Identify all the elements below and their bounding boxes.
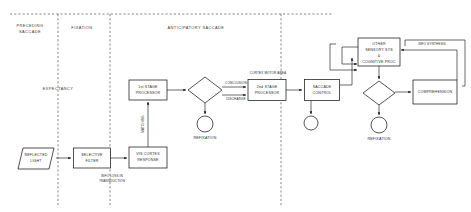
matching-label: MATCHING xyxy=(141,115,145,133)
phase-label-expectancy: EXPECTANCY xyxy=(43,86,74,91)
phase-label-line2: SACCADE xyxy=(19,29,41,34)
selective-filter-label-line1: SELECTIVE xyxy=(81,153,103,157)
other-sensory-label-line3: & xyxy=(378,54,381,58)
node-reflected-light[interactable]: REFLECTED LIGHT xyxy=(18,148,54,169)
phase-label-line1: PRECEDING xyxy=(16,23,43,28)
edge-label-matching: MATCHING xyxy=(141,115,145,133)
edge-sensory-feedback-outer xyxy=(330,44,357,70)
node-comprehension[interactable]: COMPREHENSION xyxy=(413,80,457,104)
refixation-1-label: REFIXATION xyxy=(193,136,216,140)
refixation-2-label: REFIXATION xyxy=(367,137,390,141)
phase-label-preceding-saccade: PRECEDING SACCADE xyxy=(16,23,43,34)
phase-label-line1: EXPECTANCY xyxy=(43,86,74,91)
other-sensory-label-line4: COGNITIVE PROC xyxy=(362,60,396,64)
edge-label-info-loss-transduction: INFO LOSS IN TRANSDUCTION xyxy=(99,174,125,183)
saccade-control-label-line1: SACCADE xyxy=(313,85,332,89)
reflected-light-label-line2: LIGHT xyxy=(30,159,42,163)
node-second-stage-processor[interactable]: 2nd STAGE PROCESSOR xyxy=(248,80,286,101)
node-refixation-1[interactable]: REFIXATION xyxy=(193,116,216,140)
phase-label-anticipatory-saccade: ANTICIPATORY SACCADE xyxy=(168,25,225,30)
comprehension-label: COMPREHENSION xyxy=(418,90,453,94)
info-loss-line1: INFO LOSS IN xyxy=(101,174,123,178)
edge-label-info-synthesis: INFO SYNTHESIS xyxy=(418,42,445,46)
phase-label-line1: ANTICIPATORY SACCADE xyxy=(168,25,225,30)
edge-label-conclusion: CONCLUSION xyxy=(225,81,247,85)
vis-cortex-response-label-line2: RESPONSE xyxy=(137,158,159,162)
other-sensory-label-line2: SENSORY SYS xyxy=(365,48,393,52)
diagram-canvas: PRECEDING SACCADE FIXATION ANTICIPATORY … xyxy=(0,0,471,212)
first-stage-processor-label-line2: PROCESSOR xyxy=(136,91,161,95)
first-stage-processor-label-line1: 1st STAGE xyxy=(138,85,158,89)
reflected-light-label-line1: REFLECTED xyxy=(25,153,48,157)
second-stage-processor-label-line2: PROCESSOR xyxy=(255,91,280,95)
node-refixation-mid[interactable] xyxy=(304,116,318,130)
node-refixation-2[interactable]: REFIXATION xyxy=(367,117,390,141)
discharge-label: DISCHARGE xyxy=(226,97,245,101)
node-decision-2[interactable] xyxy=(363,81,395,105)
conclusion-label: CONCLUSION xyxy=(225,81,247,85)
edge-info-synthesis xyxy=(401,50,457,80)
flow-diagram: PRECEDING SACCADE FIXATION ANTICIPATORY … xyxy=(0,0,471,212)
edge-info-synthesis-outer xyxy=(405,40,465,86)
phase-label-line1: FIXATION xyxy=(71,25,92,30)
other-sensory-label-line1: OTHER xyxy=(372,42,386,46)
node-vis-cortex-response[interactable]: VIS CORTEX RESPONSE xyxy=(129,147,167,168)
refixation-mid-shape xyxy=(304,116,318,130)
vis-cortex-response-label-line1: VIS CORTEX xyxy=(136,152,160,156)
node-other-sensory-cognitive[interactable]: OTHER SENSORY SYS & COGNITIVE PROC xyxy=(358,38,400,66)
cortex-motor-area-label: CORTEX MOTOR AREA xyxy=(250,71,287,75)
node-saccade-control[interactable]: SACCADE CONTROL xyxy=(305,80,340,101)
edge-label-cortex-motor-area: CORTEX MOTOR AREA xyxy=(250,71,287,75)
saccade-control-label-line2: CONTROL xyxy=(313,91,332,95)
decision-2-shape xyxy=(363,81,395,105)
edge-sensory-feedback-left xyxy=(342,47,358,64)
node-first-stage-processor[interactable]: 1st STAGE PROCESSOR xyxy=(129,80,167,100)
edge-label-discharge: DISCHARGE xyxy=(226,97,245,101)
decision-1-shape xyxy=(188,77,222,103)
refixation-1-shape xyxy=(197,116,213,132)
node-decision-1[interactable] xyxy=(188,77,222,103)
info-loss-line2: TRANSDUCTION xyxy=(99,179,125,183)
phase-label-fixation: FIXATION xyxy=(71,25,92,30)
refixation-2-shape xyxy=(371,117,387,133)
info-synthesis-label: INFO SYNTHESIS xyxy=(418,42,445,46)
phase-separators xyxy=(10,14,332,205)
node-selective-filter[interactable]: SELECTIVE FILTER xyxy=(74,148,111,168)
selective-filter-label-line2: FILTER xyxy=(85,159,98,163)
second-stage-processor-label-line1: 2nd STAGE xyxy=(257,85,278,89)
